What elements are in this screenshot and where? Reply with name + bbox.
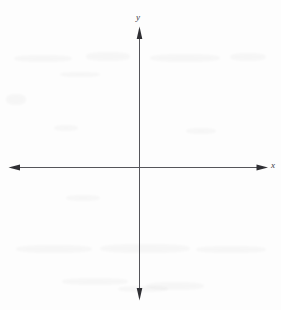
y-axis-top-arrowhead <box>137 27 143 40</box>
coordinate-axes-figure: y x <box>0 0 281 310</box>
y-axis-label: y <box>133 13 143 22</box>
x-axis-group <box>9 165 269 171</box>
x-axis-left-arrowhead <box>9 165 21 171</box>
y-axis-group <box>137 27 143 301</box>
axes-drawing <box>0 0 281 310</box>
y-axis-bottom-arrowhead <box>137 288 143 301</box>
x-axis-right-arrowhead <box>257 165 269 171</box>
x-axis-label: x <box>271 161 281 170</box>
